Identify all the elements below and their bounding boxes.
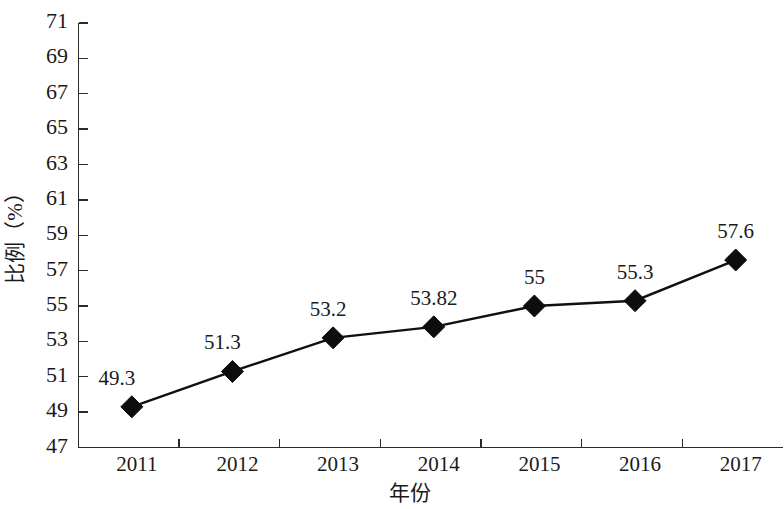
data-point-labels: 49.351.353.253.825555.357.6 [98, 219, 754, 390]
y-axis-ticks [79, 23, 88, 448]
data-point-marker [121, 396, 143, 418]
x-tick-label: 2016 [619, 452, 661, 476]
y-tick-label: 71 [46, 8, 68, 33]
x-tick-label: 2014 [418, 452, 461, 476]
x-axis-title: 年份 [389, 481, 431, 505]
y-tick-label: 59 [46, 220, 68, 245]
y-tick-label: 67 [46, 79, 68, 104]
y-tick-label: 49 [46, 397, 68, 422]
chart-page: 71696765636159575553514947 2011201220132… [0, 0, 784, 509]
x-tick-label: 2017 [720, 452, 762, 476]
x-axis-tick-labels: 2011201220132014201520162017 [116, 452, 761, 476]
y-tick-label: 55 [46, 291, 68, 316]
axes [79, 23, 784, 448]
line-chart: 71696765636159575553514947 2011201220132… [0, 0, 784, 509]
y-tick-label: 51 [46, 362, 68, 387]
x-tick-label: 2013 [317, 452, 359, 476]
data-point-label: 53.82 [410, 286, 457, 310]
data-point-label: 55.3 [617, 260, 654, 284]
data-point-label: 51.3 [204, 330, 241, 354]
x-tick-label: 2012 [216, 452, 258, 476]
data-point-label: 55 [524, 265, 545, 289]
y-tick-label: 61 [46, 185, 68, 210]
data-point-label: 49.3 [98, 366, 135, 390]
y-tick-label: 47 [46, 433, 68, 458]
data-point-label: 53.2 [310, 297, 347, 321]
data-point-label: 57.6 [717, 219, 754, 243]
y-tick-label: 53 [46, 326, 68, 351]
y-tick-label: 63 [46, 150, 68, 175]
data-point-marker [725, 249, 747, 271]
data-point-marker [624, 290, 646, 312]
y-tick-label: 65 [46, 114, 68, 139]
data-point-marker [423, 316, 445, 338]
y-tick-label: 69 [46, 43, 68, 68]
data-point-marker [322, 327, 344, 349]
y-tick-label: 57 [46, 256, 68, 281]
x-tick-label: 2011 [116, 452, 157, 476]
y-axis-tick-labels: 71696765636159575553514947 [46, 8, 68, 458]
x-axis-ticks [179, 439, 682, 448]
data-point-marker [523, 295, 545, 317]
data-point-marker [221, 360, 243, 382]
x-tick-label: 2015 [518, 452, 560, 476]
y-axis-title: 比例（%） [3, 182, 27, 284]
